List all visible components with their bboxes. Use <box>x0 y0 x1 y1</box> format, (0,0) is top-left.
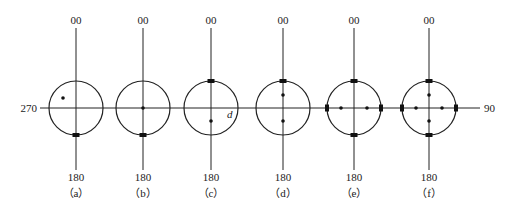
label-90: 90 <box>484 102 496 114</box>
dot-marker <box>414 106 418 110</box>
dot-marker <box>141 106 145 110</box>
square-marker-top <box>280 79 287 83</box>
dot-marker <box>281 93 285 97</box>
square-marker-bottom <box>426 133 433 137</box>
label-180: 180 <box>421 171 438 183</box>
label-00: 00 <box>138 14 150 26</box>
dot-marker <box>281 119 285 123</box>
square-marker-top <box>208 79 215 83</box>
square-marker-right <box>379 105 383 112</box>
caption-d: （d） <box>269 187 297 199</box>
label-00: 00 <box>424 14 436 26</box>
label-d: d <box>227 108 233 120</box>
label-00: 00 <box>71 14 83 26</box>
panel-e: 00180（e） <box>325 14 383 199</box>
caption-f: （f） <box>416 187 442 199</box>
panel-c: 00180（c）d <box>184 14 238 199</box>
label-00: 00 <box>278 14 290 26</box>
dot-marker <box>365 106 369 110</box>
panel-f: 00180（f） <box>400 14 458 199</box>
square-marker-bottom <box>351 133 358 137</box>
square-marker-left <box>400 105 404 112</box>
dot-marker <box>339 106 343 110</box>
label-270: 270 <box>21 102 38 114</box>
caption-c: （c） <box>198 187 225 199</box>
square-marker-top <box>351 79 358 83</box>
dot-marker <box>427 119 431 123</box>
panel-a: 00180（a） <box>49 14 103 199</box>
label-00: 00 <box>349 14 361 26</box>
square-marker-right <box>454 105 458 112</box>
square-marker-bottom <box>140 133 147 137</box>
caption-b: （b） <box>129 187 157 199</box>
dot-marker <box>427 93 431 97</box>
label-180: 180 <box>203 171 220 183</box>
label-180: 180 <box>275 171 292 183</box>
label-00: 00 <box>206 14 218 26</box>
label-180: 180 <box>346 171 363 183</box>
square-marker-left <box>325 105 329 112</box>
caption-a: （a） <box>63 187 90 199</box>
dot-marker <box>209 119 213 123</box>
panel-b: 00180（b） <box>116 14 170 199</box>
diagram-figure: 270 90 00180（a）00180（b）00180（c）d00180（d）… <box>0 0 507 216</box>
square-marker-bottom <box>73 133 80 137</box>
dot-marker <box>61 96 65 100</box>
label-180: 180 <box>68 171 85 183</box>
caption-e: （e） <box>341 187 368 199</box>
panels-group: 00180（a）00180（b）00180（c）d00180（d）00180（e… <box>49 14 458 199</box>
square-marker-top <box>426 79 433 83</box>
label-180: 180 <box>135 171 152 183</box>
dot-marker <box>440 106 444 110</box>
panel-d: 00180（d） <box>256 14 310 199</box>
